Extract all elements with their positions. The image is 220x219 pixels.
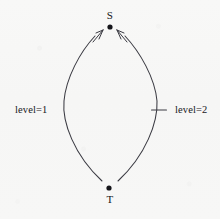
left-arc-label: level=1 xyxy=(15,104,47,115)
node-s-label: S xyxy=(0,10,220,21)
nodes-group xyxy=(106,24,112,190)
right-arc-path xyxy=(118,36,157,181)
node-s-dot xyxy=(107,24,112,29)
left-arc-path xyxy=(64,36,102,181)
right-arc-label: level=2 xyxy=(175,104,207,115)
edges-group xyxy=(64,30,167,181)
diagram-canvas: S T level=1 level=2 xyxy=(0,0,220,219)
node-t-dot xyxy=(106,185,111,190)
node-t-label: T xyxy=(0,194,220,205)
